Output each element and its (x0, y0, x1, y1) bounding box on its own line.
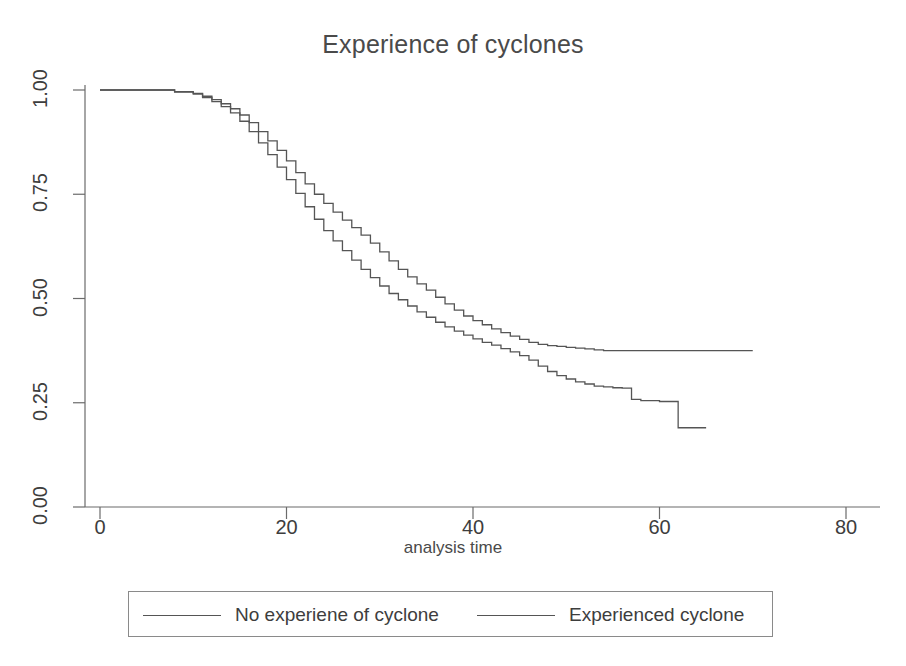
x-tick-label: 0 (70, 516, 130, 539)
x-tick-label: 40 (443, 516, 503, 539)
survival-chart: Experience of cyclones 0.000.250.500.751… (0, 0, 906, 666)
legend: No experiene of cyclone Experienced cycl… (128, 591, 773, 637)
y-tick-label: 0.75 (29, 158, 52, 228)
legend-line-icon (477, 615, 555, 616)
legend-label: Experienced cyclone (569, 604, 744, 626)
y-axis-ticks (73, 90, 85, 507)
legend-line-icon (143, 615, 221, 616)
series-line-no-experience (100, 90, 706, 428)
legend-label: No experiene of cyclone (235, 604, 439, 626)
y-tick-label: 1.00 (29, 54, 52, 124)
x-tick-label: 20 (257, 516, 317, 539)
y-tick-label: 0.00 (29, 471, 52, 541)
x-tick-label: 80 (816, 516, 876, 539)
series-lines (100, 90, 753, 428)
axes (85, 85, 880, 507)
legend-item-no-experience: No experiene of cyclone (143, 592, 439, 638)
y-tick-label: 0.50 (29, 262, 52, 332)
x-axis-title: analysis time (0, 538, 906, 558)
legend-item-experienced: Experienced cyclone (477, 592, 744, 638)
x-tick-label: 60 (630, 516, 690, 539)
plot-area (0, 0, 906, 560)
y-tick-label: 0.25 (29, 366, 52, 436)
